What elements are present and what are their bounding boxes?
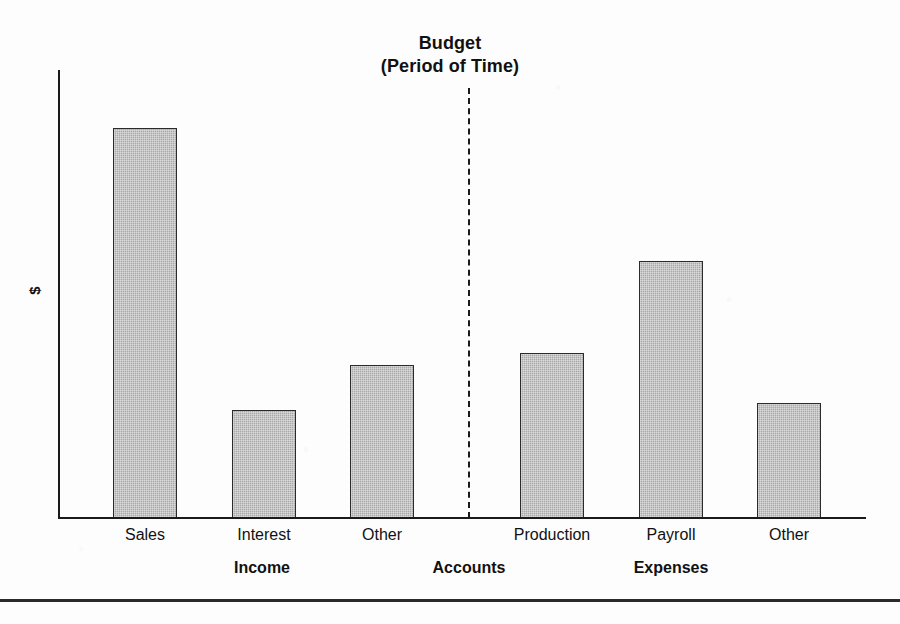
category-label-other-expense: Other [709, 524, 869, 546]
bar-other-expense [757, 403, 821, 518]
group-label-expenses: Expenses [591, 557, 751, 579]
y-axis-label: $ [26, 286, 43, 294]
category-label-other-income: Other [302, 524, 462, 546]
bottom-divider-rule [0, 599, 900, 602]
income-expenses-divider [468, 88, 470, 518]
bar-other-income [350, 365, 414, 518]
x-axis-line [58, 517, 866, 519]
budget-bar-chart: Budget (Period of Time) $ SalesInterestO… [0, 0, 900, 624]
bar-interest [232, 410, 296, 518]
bar-sales [113, 128, 177, 518]
bar-production [520, 353, 584, 518]
bar-payroll [639, 261, 703, 518]
chart-title-line-1: Budget [0, 32, 900, 55]
y-axis-line [58, 70, 60, 519]
group-label-accounts: Accounts [389, 557, 549, 579]
group-label-income: Income [182, 557, 342, 579]
chart-title: Budget (Period of Time) [0, 32, 900, 78]
chart-subtitle-line-2: (Period of Time) [0, 55, 900, 78]
